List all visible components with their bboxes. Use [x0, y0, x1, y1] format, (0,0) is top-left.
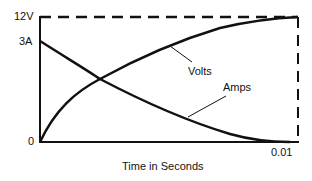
voltage-current-chart: 12V 3A 0 0.01 Time in Seconds Volts Amps: [0, 0, 312, 181]
y-tick-3a: 3A: [19, 36, 32, 47]
x-tick-end: 0.01: [271, 147, 292, 158]
chart-plot: [0, 0, 312, 181]
amps-curve: [40, 41, 290, 142]
y-tick-12v: 12V: [14, 11, 34, 22]
x-axis-title: Time in Seconds: [122, 161, 204, 172]
amps-label: Amps: [223, 82, 251, 93]
volts-leader-line: [170, 46, 192, 62]
volts-curve: [40, 17, 298, 142]
volts-label: Volts: [188, 66, 212, 77]
y-tick-zero: 0: [28, 136, 34, 147]
amps-leader-line: [188, 96, 226, 117]
